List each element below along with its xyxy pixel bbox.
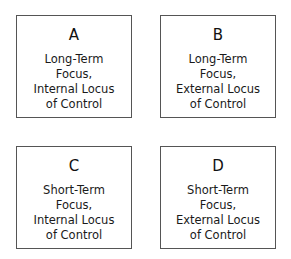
quadrant-b-letter: B: [161, 26, 275, 44]
quadrant-d-description: Short-Term Focus, External Locus of Cont…: [161, 183, 275, 243]
quadrant-d-line-2: Focus,: [161, 198, 275, 213]
quadrant-a-description: Long-Term Focus, Internal Locus of Contr…: [17, 52, 131, 112]
quadrant-d-line-3: External Locus: [161, 213, 275, 228]
quadrant-d-line-4: of Control: [161, 228, 275, 243]
quadrant-c-line-1: Short-Term: [17, 183, 131, 198]
quadrant-d-box: D Short-Term Focus, External Locus of Co…: [160, 146, 276, 249]
quadrant-b-line-1: Long-Term: [161, 52, 275, 67]
quadrant-c-line-3: Internal Locus: [17, 213, 131, 228]
quadrant-a-letter: A: [17, 26, 131, 44]
quadrant-b-line-3: External Locus: [161, 82, 275, 97]
quadrant-c-letter: C: [17, 157, 131, 175]
quadrant-c-line-4: of Control: [17, 228, 131, 243]
quadrant-c-line-2: Focus,: [17, 198, 131, 213]
quadrant-b-line-2: Focus,: [161, 67, 275, 82]
quadrant-a-line-2: Focus,: [17, 67, 131, 82]
quadrant-b-line-4: of Control: [161, 97, 275, 112]
quadrant-a-line-4: of Control: [17, 97, 131, 112]
quadrant-d-line-1: Short-Term: [161, 183, 275, 198]
quadrant-c-description: Short-Term Focus, Internal Locus of Cont…: [17, 183, 131, 243]
quadrant-a-box: A Long-Term Focus, Internal Locus of Con…: [16, 15, 132, 118]
quadrant-c-box: C Short-Term Focus, Internal Locus of Co…: [16, 146, 132, 249]
quadrant-a-line-1: Long-Term: [17, 52, 131, 67]
quadrant-b-description: Long-Term Focus, External Locus of Contr…: [161, 52, 275, 112]
quadrant-d-letter: D: [161, 157, 275, 175]
quadrant-b-box: B Long-Term Focus, External Locus of Con…: [160, 15, 276, 118]
quadrant-a-line-3: Internal Locus: [17, 82, 131, 97]
